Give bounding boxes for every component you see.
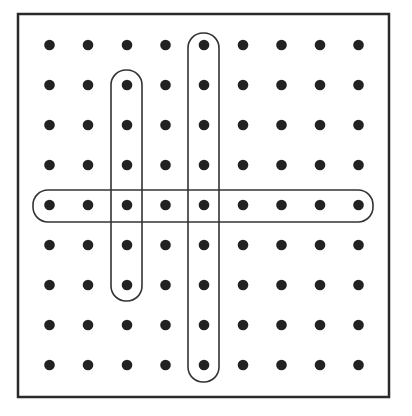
- dot-r6-c9: [353, 240, 364, 251]
- dot-r3-c5: [199, 120, 210, 131]
- dot-r7-c8: [315, 280, 326, 291]
- dot-r5-c9: [353, 200, 364, 211]
- dot-r1-c6: [238, 40, 249, 51]
- dot-r6-c5: [199, 240, 210, 251]
- dot-r3-c8: [315, 120, 326, 131]
- dot-r2-c6: [238, 80, 249, 91]
- dot-r2-c7: [276, 80, 287, 91]
- dot-r1-c7: [276, 40, 287, 51]
- dot-r7-c7: [276, 280, 287, 291]
- dot-r8-c2: [83, 320, 94, 331]
- dot-r9-c7: [276, 360, 287, 371]
- dot-r7-c2: [83, 280, 94, 291]
- dot-r4-c1: [44, 160, 55, 171]
- dot-r1-c9: [353, 40, 364, 51]
- dot-r3-c4: [160, 120, 171, 131]
- dot-r6-c6: [238, 240, 249, 251]
- dot-r1-c1: [44, 40, 55, 51]
- dot-r8-c3: [122, 320, 133, 331]
- dot-r7-c3: [122, 280, 133, 291]
- dot-r5-c3: [122, 200, 133, 211]
- dot-r6-c4: [160, 240, 171, 251]
- grouping-vertical-col-3: [111, 70, 142, 301]
- dot-r3-c1: [44, 120, 55, 131]
- dot-r3-c2: [83, 120, 94, 131]
- dot-r4-c2: [83, 160, 94, 171]
- dot-r2-c2: [83, 80, 94, 91]
- dot-r3-c3: [122, 120, 133, 131]
- dot-r9-c5: [199, 360, 210, 371]
- dot-r1-c8: [315, 40, 326, 51]
- dot-r2-c9: [353, 80, 364, 91]
- dot-r6-c2: [83, 240, 94, 251]
- dot-r9-c3: [122, 360, 133, 371]
- dot-r9-c8: [315, 360, 326, 371]
- dot-r5-c4: [160, 200, 171, 211]
- dot-r1-c4: [160, 40, 171, 51]
- dot-r8-c6: [238, 320, 249, 331]
- dot-r5-c8: [315, 200, 326, 211]
- dot-r5-c2: [83, 200, 94, 211]
- dot-r4-c9: [353, 160, 364, 171]
- dot-r2-c1: [44, 80, 55, 91]
- dot-r3-c9: [353, 120, 364, 131]
- dot-r8-c1: [44, 320, 55, 331]
- dot-r2-c3: [122, 80, 133, 91]
- dot-r3-c7: [276, 120, 287, 131]
- dot-r5-c5: [199, 200, 210, 211]
- dot-r7-c6: [238, 280, 249, 291]
- dot-r7-c5: [199, 280, 210, 291]
- dot-r9-c1: [44, 360, 55, 371]
- dot-r4-c8: [315, 160, 326, 171]
- dot-r8-c8: [315, 320, 326, 331]
- dot-r7-c4: [160, 280, 171, 291]
- dot-r9-c2: [83, 360, 94, 371]
- dot-r1-c2: [83, 40, 94, 51]
- dot-r9-c4: [160, 360, 171, 371]
- dot-r8-c7: [276, 320, 287, 331]
- dot-r4-c7: [276, 160, 287, 171]
- dot-r2-c8: [315, 80, 326, 91]
- dot-r5-c6: [238, 200, 249, 211]
- dot-r6-c1: [44, 240, 55, 251]
- dot-r1-c3: [122, 40, 133, 51]
- dot-r4-c5: [199, 160, 210, 171]
- dot-r6-c3: [122, 240, 133, 251]
- dot-r8-c4: [160, 320, 171, 331]
- dot-grid: [44, 40, 364, 371]
- dot-r8-c9: [353, 320, 364, 331]
- dot-r8-c5: [199, 320, 210, 331]
- dot-r3-c6: [238, 120, 249, 131]
- dot-r5-c1: [44, 200, 55, 211]
- dot-r6-c7: [276, 240, 287, 251]
- dot-r7-c1: [44, 280, 55, 291]
- dot-r5-c7: [276, 200, 287, 211]
- dot-r7-c9: [353, 280, 364, 291]
- dot-r1-c5: [199, 40, 210, 51]
- dot-r4-c3: [122, 160, 133, 171]
- dot-grid-diagram: [0, 0, 412, 416]
- dot-r4-c6: [238, 160, 249, 171]
- dot-r6-c8: [315, 240, 326, 251]
- dot-r9-c9: [353, 360, 364, 371]
- dot-r2-c4: [160, 80, 171, 91]
- dot-r4-c4: [160, 160, 171, 171]
- dot-r2-c5: [199, 80, 210, 91]
- dot-r9-c6: [238, 360, 249, 371]
